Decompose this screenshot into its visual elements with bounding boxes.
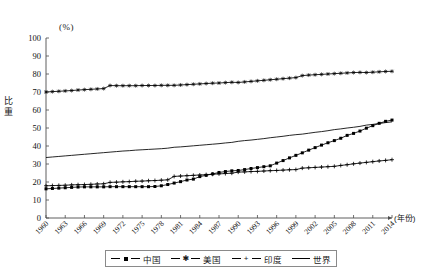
marker-filled-square [160, 184, 163, 187]
x-tick-label: 1975 [129, 219, 146, 236]
legend-label: 中国 [143, 253, 161, 265]
marker-asterisk [108, 84, 112, 88]
chart-legend: 中国 ✱ 美国 + 印度 世界 [105, 250, 337, 267]
marker-filled-square [275, 162, 278, 165]
marker-filled-square [45, 187, 48, 190]
legend-item-china[interactable]: 中国 [111, 253, 161, 265]
legend-item-world[interactable]: 世界 [292, 253, 331, 265]
marker-filled-square [288, 156, 291, 159]
marker-asterisk [217, 81, 221, 85]
marker-plus [121, 180, 125, 184]
marker-plus [313, 165, 317, 169]
marker-plus [332, 164, 336, 168]
chart-axes [46, 38, 392, 218]
marker-asterisk [102, 87, 106, 91]
marker-asterisk [89, 87, 93, 91]
marker-plus [134, 179, 138, 183]
marker-asterisk [358, 70, 362, 74]
marker-asterisk [262, 78, 266, 82]
marker-filled-square [282, 159, 285, 162]
marker-asterisk [179, 83, 183, 87]
legend-line-icon [252, 258, 261, 259]
marker-plus [326, 165, 330, 169]
marker-plus [345, 163, 349, 167]
marker-filled-square [314, 146, 317, 149]
marker-filled-square [141, 185, 144, 188]
marker-asterisk [147, 84, 151, 88]
marker-filled-square [250, 167, 253, 170]
marker-filled-square [391, 119, 394, 122]
legend-item-usa[interactable]: ✱ 美国 [171, 253, 221, 265]
marker-filled-square [262, 165, 265, 168]
marker-asterisk [204, 82, 208, 86]
asterisk-icon: ✱ [182, 255, 189, 262]
legend-label: 世界 [313, 253, 331, 265]
marker-filled-square [102, 185, 105, 188]
marker-filled-square [352, 132, 355, 135]
marker-plus [377, 159, 381, 163]
marker-asterisk [127, 84, 131, 88]
legend-item-india[interactable]: + 印度 [232, 253, 282, 265]
marker-asterisk [384, 69, 388, 73]
marker-asterisk [364, 71, 368, 75]
marker-filled-square [115, 185, 118, 188]
y-tick-label: 40 [33, 141, 42, 151]
marker-plus [262, 169, 266, 173]
marker-asterisk [114, 84, 118, 88]
marker-plus [191, 173, 195, 177]
marker-asterisk [50, 90, 54, 94]
y-tick-label: 100 [28, 33, 41, 43]
legend-line-icon [171, 258, 180, 259]
marker-asterisk [44, 90, 48, 94]
legend-label: 印度 [264, 253, 282, 265]
y-tick-label: 50 [33, 123, 42, 133]
marker-asterisk [166, 83, 170, 87]
x-tick-label: 2002 [302, 219, 319, 236]
marker-plus [358, 161, 362, 165]
marker-filled-square [346, 134, 349, 137]
marker-plus [108, 180, 112, 184]
marker-asterisk [63, 89, 67, 93]
marker-asterisk [275, 77, 279, 81]
legend-line-icon [232, 258, 241, 259]
marker-filled-square [365, 127, 368, 130]
x-tick-label: 1987 [206, 219, 223, 236]
marker-asterisk [172, 83, 176, 87]
plus-icon: + [243, 255, 250, 262]
x-tick-label: 1981 [168, 219, 185, 236]
x-tick-label: 1993 [245, 219, 262, 236]
y-tick-label: 80 [33, 69, 42, 79]
marker-plus [371, 160, 375, 164]
marker-plus [249, 170, 253, 174]
plot-area: 0102030405060708090100196019631966196919… [0, 0, 429, 271]
marker-filled-square [307, 149, 310, 152]
marker-filled-square [109, 185, 112, 188]
chart-figure: (%) 比重 010203040506070809010019601963196… [0, 0, 429, 271]
marker-asterisk [191, 82, 195, 86]
x-tick-label: 1969 [91, 219, 108, 236]
marker-plus [185, 174, 189, 178]
marker-plus [352, 162, 356, 166]
marker-asterisk [243, 80, 247, 84]
y-tick-label: 30 [33, 159, 42, 169]
marker-asterisk [198, 82, 202, 86]
marker-asterisk [326, 72, 330, 76]
marker-filled-square [173, 182, 176, 185]
marker-filled-square [326, 141, 329, 144]
marker-asterisk [320, 72, 324, 76]
marker-filled-square [301, 151, 304, 154]
marker-plus [140, 179, 144, 183]
y-tick-label: 20 [33, 177, 42, 187]
marker-asterisk [153, 84, 157, 88]
series-line-0 [46, 120, 392, 189]
marker-asterisk [211, 81, 215, 85]
marker-asterisk [185, 83, 189, 87]
marker-filled-square [179, 180, 182, 183]
marker-asterisk [268, 78, 272, 82]
legend-line-icon [111, 258, 120, 259]
marker-asterisk [300, 74, 304, 78]
marker-plus [255, 169, 259, 173]
marker-asterisk [76, 88, 80, 92]
x-tick-label: 2005 [322, 219, 339, 236]
x-tick-label: 1972 [110, 219, 127, 236]
